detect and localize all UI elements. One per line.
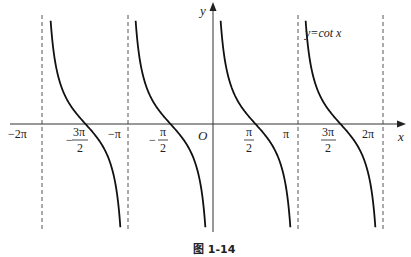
tick-label-minus-pi-2-num: π — [160, 125, 166, 139]
tick-label-minus-2pi: −2π — [8, 127, 27, 141]
figure-caption: 图 1-14 — [193, 243, 236, 256]
tick-label-2pi: 2π — [362, 127, 374, 141]
y-axis-label: y — [198, 3, 206, 18]
tick-label-3pi-2-num: 3π — [322, 125, 334, 139]
tick-label-minus-pi-2-den: 2 — [160, 141, 166, 155]
x-axis-label: x — [397, 129, 404, 144]
cot-graph-svg: y x O y=cot x −2π − 3π 2 −π − π 2 π 2 π … — [0, 0, 411, 257]
tick-label-3pi-2-den: 2 — [325, 141, 331, 155]
tick-label-minus-pi-2-sign: − — [149, 133, 156, 147]
tick-label-pi-2-num: π — [246, 125, 252, 139]
origin-label: O — [198, 128, 208, 143]
tick-label-minus-3pi-2-sign: − — [66, 133, 73, 147]
tick-label-pi-2-den: 2 — [246, 141, 252, 155]
function-label: y=cot x — [304, 26, 342, 40]
x-axis-arrow-icon — [397, 121, 406, 128]
y-axis-arrow-icon — [210, 2, 217, 11]
axes — [10, 8, 400, 232]
tick-label-minus-3pi-2-den: 2 — [77, 141, 83, 155]
cot-graph-figure: y x O y=cot x −2π − 3π 2 −π − π 2 π 2 π … — [0, 0, 411, 257]
tick-label-minus-pi: −π — [108, 127, 121, 141]
tick-label-minus-3pi-2-num: 3π — [73, 125, 85, 139]
tick-label-pi: π — [283, 127, 289, 141]
